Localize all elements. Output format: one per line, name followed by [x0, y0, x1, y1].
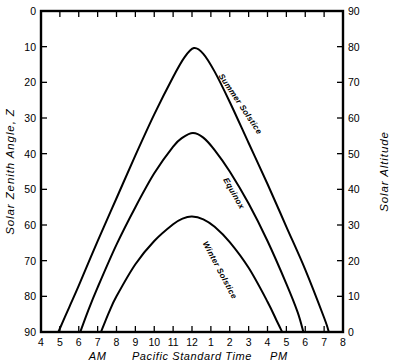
x-tick-label: 3 [246, 336, 252, 348]
curve-label-winter-solstice: Winter Solstice [201, 240, 239, 300]
y2-tick-label: 60 [348, 112, 360, 124]
x-tick-label: 9 [132, 336, 138, 348]
y-tick-label: 90 [24, 326, 36, 338]
x-tick-label: 10 [148, 336, 160, 348]
x-axis-title: Pacific Standard Time [132, 350, 252, 362]
y2-tick-label: 80 [348, 41, 360, 53]
x-tick-label: 6 [76, 336, 82, 348]
x-tick-label: 7 [95, 336, 101, 348]
x-tick-label: 4 [265, 336, 271, 348]
y-tick-label: 0 [30, 5, 36, 17]
y2-tick-label: 50 [348, 148, 360, 160]
y-tick-label: 50 [24, 183, 36, 195]
y-tick-label: 70 [24, 255, 36, 267]
y-tick-label: 10 [24, 41, 36, 53]
x-tick-label: 6 [302, 336, 308, 348]
x-tick-label: 1 [208, 336, 214, 348]
y2-tick-label: 30 [348, 219, 360, 231]
x-tick-label: 11 [168, 336, 179, 348]
x-tick-label: 5 [57, 336, 63, 348]
y2-tick-label: 70 [348, 76, 360, 88]
y2-axis-title: Solar Altitude [378, 131, 390, 212]
period-label-pm: PM [270, 350, 288, 362]
y2-tick-label: 90 [348, 5, 360, 17]
solar-zenith-angle-chart: 4567891011121234567809010802070306040505… [0, 0, 399, 364]
y-tick-label: 80 [24, 290, 36, 302]
y-tick-label: 20 [24, 76, 36, 88]
x-tick-label: 8 [114, 336, 120, 348]
y2-tick-label: 20 [348, 255, 360, 267]
period-label-am: AM [88, 350, 107, 362]
y-axis-title: Solar Zenith Angle, Z [4, 108, 16, 235]
y-tick-label: 30 [24, 112, 36, 124]
x-tick-label: 2 [227, 336, 233, 348]
y-tick-label: 40 [24, 148, 36, 160]
curve-winter-solstice [101, 216, 282, 332]
x-tick-label: 12 [186, 336, 198, 348]
x-tick-label: 7 [321, 336, 327, 348]
y2-tick-label: 0 [348, 326, 354, 338]
y-tick-label: 60 [24, 219, 36, 231]
chart-figure: 4567891011121234567809010802070306040505… [0, 0, 399, 364]
x-tick-label: 8 [340, 336, 346, 348]
x-tick-label: 5 [283, 336, 289, 348]
plot-frame [41, 11, 343, 332]
x-tick-label: 4 [38, 336, 44, 348]
y2-tick-label: 40 [348, 183, 360, 195]
y2-tick-label: 10 [348, 290, 360, 302]
